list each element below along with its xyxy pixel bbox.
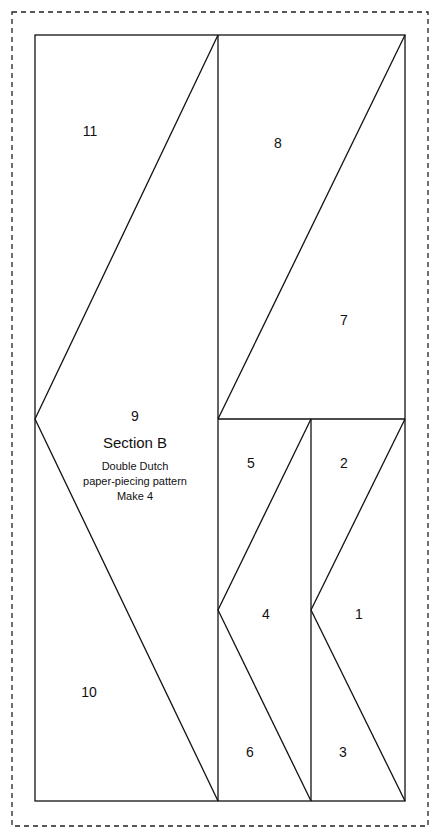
piece-label-7: 7 (340, 312, 348, 328)
seam-11-9 (35, 35, 218, 419)
piece-label-3: 3 (339, 744, 347, 760)
seam-1-3 (311, 610, 405, 801)
seam-4-6 (218, 610, 311, 801)
section-title: Section B (103, 434, 167, 451)
piece-label-5: 5 (247, 455, 255, 471)
seam-8-7 (218, 35, 405, 419)
subtitle-line-1: Double Dutch (102, 459, 169, 473)
piece-label-2: 2 (340, 455, 348, 471)
piece-label-11: 11 (83, 123, 98, 139)
subtitle-line-3: Make 4 (117, 489, 153, 503)
pattern-diagram (0, 0, 435, 839)
piece-label-4: 4 (262, 606, 270, 622)
piece-label-1: 1 (355, 606, 363, 622)
piece-label-6: 6 (246, 744, 254, 760)
piece-label-10: 10 (81, 684, 97, 700)
seam-5-4 (218, 419, 311, 610)
piece-label-9: 9 (131, 408, 139, 424)
piece-label-8: 8 (274, 135, 282, 151)
subtitle-line-2: paper-piecing pattern (83, 474, 187, 488)
seam-2-1 (311, 419, 405, 610)
